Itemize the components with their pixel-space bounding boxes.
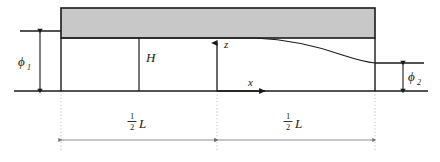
height-H-label: H bbox=[145, 50, 156, 65]
gray-block bbox=[61, 8, 375, 38]
z-axis-label: z bbox=[223, 38, 229, 50]
half-L-left-variable: L bbox=[138, 116, 146, 131]
half-L-right-denominator: 2 bbox=[286, 122, 290, 132]
phi2-subscript: 2 bbox=[417, 78, 421, 87]
x-axis-label: x bbox=[247, 76, 253, 88]
phi1-subscript: 1 bbox=[27, 63, 31, 72]
half-L-left-denominator: 2 bbox=[130, 122, 134, 132]
phi2-label: ϕ bbox=[408, 69, 415, 84]
diagram-canvas: ϕ 1 ϕ 2 H z x 1 2 L 1 2 L bbox=[0, 0, 440, 162]
half-L-label-left: 1 2 L bbox=[128, 111, 147, 132]
half-L-right-variable: L bbox=[294, 116, 302, 131]
interface-curve bbox=[61, 38, 375, 63]
channel-flow-diagram: ϕ 1 ϕ 2 H z x 1 2 L 1 2 L bbox=[0, 0, 440, 162]
half-L-left-numerator: 1 bbox=[130, 111, 134, 121]
half-L-label-right: 1 2 L bbox=[284, 111, 303, 132]
half-L-right-numerator: 1 bbox=[286, 111, 290, 121]
phi1-label: ϕ bbox=[18, 54, 25, 69]
